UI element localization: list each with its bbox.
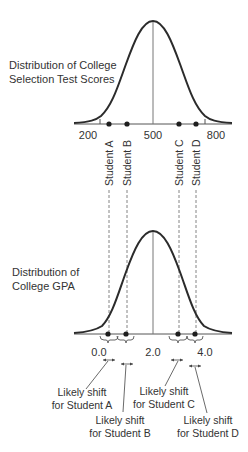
- bottom-dot-student-a: [105, 331, 110, 336]
- top-dot-student-c: [176, 121, 181, 126]
- bottom-dot-student-d: [192, 331, 197, 336]
- top-tick-label-500: 500: [144, 129, 162, 141]
- leader-student-d: [195, 367, 207, 413]
- top-distribution: Distribution of College Selection Test S…: [9, 21, 232, 186]
- top-dot-student-d: [193, 121, 198, 126]
- brace-student-a: [100, 336, 118, 343]
- annotation-d-line2: for Student D: [177, 427, 239, 439]
- brace-student-c: [169, 336, 187, 343]
- shift-annotations: Likely shift for Student A Likely shift …: [52, 385, 240, 439]
- bottom-title-line1: Distribution of: [12, 266, 80, 278]
- bottom-tick-label-0: 0.0: [91, 346, 106, 358]
- annotation-b-line2: for Student B: [89, 427, 150, 439]
- shift-braces: [100, 336, 203, 343]
- top-dot-student-b: [124, 121, 129, 126]
- student-d-label: Student D: [190, 139, 202, 186]
- bottom-tick-label-4: 4.0: [197, 346, 212, 358]
- annotation-a-line1: Likely shift: [57, 386, 106, 398]
- top-tick-label-800: 800: [207, 129, 225, 141]
- annotation-c-line2: for Student C: [133, 398, 195, 410]
- annotation-b-line1: Likely shift: [95, 414, 144, 426]
- annotation-c-line1: Likely shift: [139, 385, 188, 397]
- bottom-tick-label-2: 2.0: [145, 346, 160, 358]
- top-dot-student-a: [106, 121, 111, 126]
- annotation-d-line1: Likely shift: [183, 414, 232, 426]
- annotation-a-line2: for Student A: [52, 399, 113, 411]
- top-tick-label-200: 200: [79, 129, 97, 141]
- brace-student-b: [117, 336, 134, 343]
- bottom-distribution: Distribution of College GPA 0.0 2.0 4.0: [12, 231, 232, 358]
- student-c-label: Student C: [173, 139, 185, 186]
- student-a-label: Student A: [103, 140, 115, 186]
- leader-student-b: [123, 365, 126, 412]
- bottom-dot-student-b: [123, 331, 128, 336]
- bottom-dot-student-c: [175, 331, 180, 336]
- diagram-canvas: Distribution of College Selection Test S…: [0, 0, 248, 452]
- top-title-line1: Distribution of College: [9, 59, 117, 71]
- brace-student-d: [187, 336, 203, 343]
- student-b-label: Student B: [121, 140, 133, 186]
- leader-student-c: [165, 361, 178, 386]
- bottom-title-line2: College GPA: [12, 280, 75, 292]
- leader-student-a: [86, 361, 108, 389]
- top-title-line2: Selection Test Scores: [9, 73, 115, 85]
